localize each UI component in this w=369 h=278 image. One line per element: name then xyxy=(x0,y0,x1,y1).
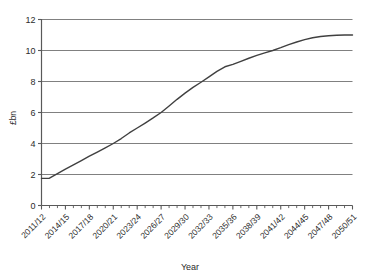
x-axis-tick-label: 2050/51 xyxy=(330,212,359,241)
x-axis-tick-label: 2029/30 xyxy=(162,212,191,241)
y-axis-tick-label: 2 xyxy=(30,170,35,180)
y-axis-title-text: £bn xyxy=(8,111,18,125)
x-axis-title-text: Year xyxy=(181,262,199,272)
x-axis-tick-label: 2047/48 xyxy=(306,212,335,241)
x-axis-title: Year xyxy=(181,262,199,272)
x-axis-tick-label: 2023/24 xyxy=(114,212,143,241)
x-axis-tick-labels: 2011/122014/152017/182020/212023/242026/… xyxy=(19,212,359,241)
x-axis-tick-label: 2044/45 xyxy=(282,212,311,241)
x-axis-tick-label: 2014/15 xyxy=(43,212,72,241)
x-axis-tick-label: 2035/36 xyxy=(210,212,239,241)
series-line-path xyxy=(42,35,353,178)
x-axis-ticks xyxy=(42,206,353,210)
line-chart: 024681012 2011/122014/152017/182020/2120… xyxy=(0,0,369,278)
x-axis-tick-label: 2041/42 xyxy=(258,212,287,241)
x-axis-tick-label: 2017/18 xyxy=(66,212,95,241)
y-axis-tick-label: 4 xyxy=(30,139,35,149)
y-axis-title: £bn xyxy=(8,111,18,125)
data-series-line xyxy=(42,35,353,178)
y-axis-tick-label: 12 xyxy=(25,15,35,25)
x-axis-tick-label: 2011/12 xyxy=(19,212,48,241)
y-axis-tick-labels: 024681012 xyxy=(25,15,41,211)
x-axis-tick-label: 2020/21 xyxy=(90,212,119,241)
gridlines xyxy=(42,20,353,175)
x-axis-tick-label: 2026/27 xyxy=(138,212,167,241)
chart-canvas: 024681012 2011/122014/152017/182020/2120… xyxy=(0,0,369,278)
y-axis-tick-label: 6 xyxy=(30,108,35,118)
y-axis-tick-label: 10 xyxy=(25,46,35,56)
x-axis-tick-label: 2038/39 xyxy=(234,212,263,241)
x-axis-tick-label: 2032/33 xyxy=(186,212,215,241)
y-axis-tick-label: 0 xyxy=(30,201,35,211)
y-axis-tick-label: 8 xyxy=(30,77,35,87)
